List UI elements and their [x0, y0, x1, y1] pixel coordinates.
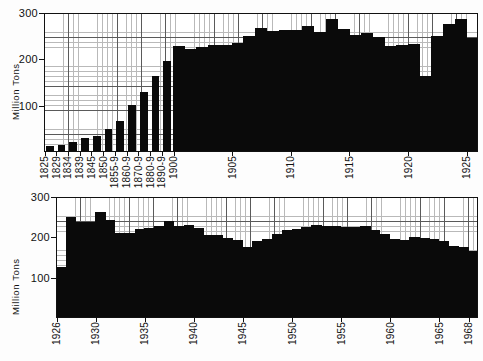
- x-tick-label: 1920: [403, 156, 414, 179]
- x-tick-label: 1829: [51, 156, 62, 179]
- y-tick-label: 100: [8, 100, 38, 112]
- bar: [326, 19, 338, 152]
- bar: [116, 121, 124, 153]
- x-tick-label: 1915: [344, 156, 355, 179]
- bar: [46, 146, 54, 152]
- bar: [196, 47, 208, 152]
- bar: [163, 61, 171, 152]
- x-tick-label: 1935: [139, 322, 150, 345]
- x-tick-label: 1839: [74, 156, 85, 179]
- bar: [267, 31, 279, 152]
- bar: [290, 30, 302, 152]
- bar: [431, 36, 443, 152]
- top-chart-panel: Million Tons 100200300 18251829183418391…: [0, 0, 483, 180]
- x-tick-label: 1955: [336, 322, 347, 345]
- bar: [314, 32, 326, 152]
- bar: [384, 46, 396, 152]
- bar: [466, 38, 478, 152]
- x-tick-label: 1910: [285, 156, 296, 179]
- bar: [302, 26, 314, 152]
- bar: [337, 29, 349, 152]
- y-tick-label: 200: [8, 53, 38, 65]
- bar: [443, 24, 455, 152]
- bar: [372, 37, 384, 152]
- x-tick-label: 1905: [227, 156, 238, 179]
- bar: [349, 35, 361, 152]
- x-tick-label: 1834: [62, 156, 73, 179]
- bar: [455, 19, 467, 152]
- x-tick-label: 1845: [86, 156, 97, 179]
- y-tick-label: 200: [20, 231, 50, 243]
- x-tick-label: 1950: [287, 322, 298, 345]
- x-tick-label: 1926: [51, 322, 62, 345]
- bar: [419, 76, 431, 152]
- bar: [232, 43, 244, 152]
- x-tick-label: 1900: [168, 156, 179, 179]
- x-tick-label: 1965: [434, 322, 445, 345]
- bar: [93, 136, 101, 152]
- bar: [69, 142, 77, 152]
- bar: [361, 33, 373, 152]
- bar: [128, 105, 136, 152]
- bar: [408, 44, 420, 152]
- bar: [243, 36, 255, 152]
- x-tick-label: 1960: [385, 322, 396, 345]
- x-tick-label: 1968: [463, 322, 474, 345]
- bar: [152, 76, 160, 152]
- bar: [220, 45, 232, 152]
- bar: [279, 30, 291, 152]
- bar: [140, 92, 148, 152]
- bar: [185, 49, 197, 152]
- bar: [468, 251, 478, 318]
- x-tick-label: 1930: [90, 322, 101, 345]
- bar: [255, 28, 267, 152]
- bottom-chart-panel: Million Tons 100200300 19261930193519401…: [0, 180, 483, 361]
- x-tick-label: 1940: [188, 322, 199, 345]
- top-plot-area: [44, 13, 478, 152]
- bar: [396, 45, 408, 152]
- y-tick-label: 300: [20, 191, 50, 203]
- y-tick-label: 100: [20, 272, 50, 284]
- bar: [208, 45, 220, 152]
- bar: [58, 145, 66, 152]
- chart-figure: Million Tons 100200300 18251829183418391…: [0, 0, 483, 361]
- bar: [81, 138, 89, 152]
- x-tick-label: 1925: [461, 156, 472, 179]
- x-tick-label: 1825: [39, 156, 50, 179]
- x-tick-label: 1945: [237, 322, 248, 345]
- bar: [105, 129, 113, 152]
- y-tick-label: 300: [8, 7, 38, 19]
- bottom-plot-area: [56, 197, 478, 318]
- x-tick-label: 1850: [98, 156, 109, 179]
- bar: [173, 46, 185, 152]
